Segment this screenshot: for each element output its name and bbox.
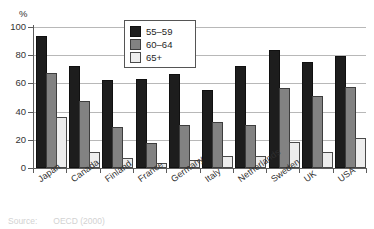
bar-group (269, 27, 299, 168)
x-axis-tick (166, 168, 167, 173)
bar-group (235, 27, 265, 168)
x-axis-category-label: UK (302, 169, 318, 185)
bar (222, 156, 233, 168)
y-axis-tick-label: 20 (0, 134, 26, 145)
x-axis-tick (333, 168, 334, 173)
y-axis-tick-label: 80 (0, 49, 26, 60)
bar-group (36, 27, 66, 168)
x-axis-tick (66, 168, 67, 173)
gray-swatch (130, 39, 141, 50)
white-swatch (130, 52, 141, 63)
chart-legend: 55–5960–6465+ (124, 20, 196, 68)
x-axis-tick (100, 168, 101, 173)
legend-item: 55–59 (130, 25, 190, 37)
black-swatch (130, 26, 141, 37)
legend-item: 60–64 (130, 38, 190, 50)
y-axis-tick-label: 0 (0, 162, 26, 173)
bar-group (69, 27, 99, 168)
top-margin-artifact (0, 0, 374, 8)
bar (355, 138, 366, 168)
x-axis-tick (233, 168, 234, 173)
x-axis-tick (200, 168, 201, 173)
plot-area (33, 27, 366, 168)
x-axis-tick (266, 168, 267, 173)
bar-group (335, 27, 365, 168)
y-axis-tick-label: 40 (0, 106, 26, 117)
y-axis-unit-label: % (19, 8, 27, 19)
bar (56, 117, 67, 168)
bar-chart-figure: % 020406080100 JapanCanadaFinlandFranceG… (0, 0, 374, 229)
legend-item-label: 60–64 (146, 39, 172, 50)
x-axis-tick (366, 168, 367, 173)
source-note: Source:OECD (2000) (8, 216, 105, 226)
source-label: Source: (8, 216, 37, 226)
bar-group (302, 27, 332, 168)
x-axis-tick (299, 168, 300, 173)
legend-item: 65+ (130, 51, 190, 63)
y-axis-tick-label: 60 (0, 77, 26, 88)
bar-group (202, 27, 232, 168)
legend-item-label: 55–59 (146, 26, 172, 37)
y-axis-tick-label: 100 (0, 21, 26, 32)
source-text: OECD (2000) (53, 216, 105, 226)
x-axis-tick (33, 168, 34, 173)
x-axis-tick (133, 168, 134, 173)
legend-item-label: 65+ (146, 52, 162, 63)
bar (322, 152, 333, 168)
